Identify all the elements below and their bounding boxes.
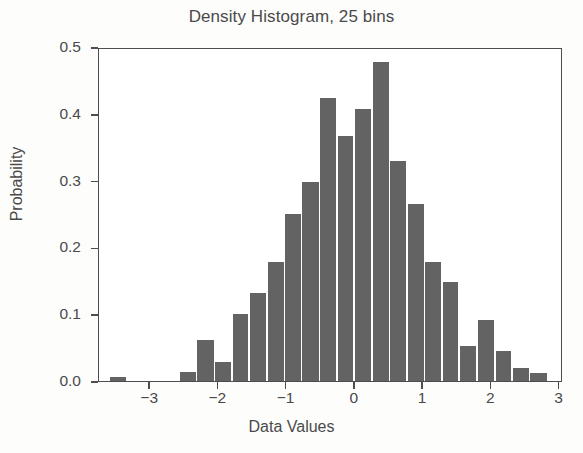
x-tick-mark — [490, 382, 492, 389]
x-tick-mark — [353, 382, 355, 389]
histogram-bar — [373, 62, 389, 381]
histogram-bar — [268, 262, 284, 381]
histogram-bar — [285, 214, 300, 381]
histogram-bar — [338, 136, 353, 381]
y-tick-mark — [91, 47, 98, 49]
y-tick-mark — [91, 248, 98, 250]
y-tick-label: 0.2 — [21, 238, 81, 256]
x-tick-label: 1 — [402, 389, 442, 407]
x-tick-mark — [558, 382, 560, 389]
histogram-bar — [443, 282, 458, 381]
x-tick-mark — [421, 382, 423, 389]
histogram-bar — [496, 351, 511, 381]
plot-area — [98, 48, 562, 382]
chart-title: Density Histogram, 25 bins — [0, 7, 583, 27]
x-tick-label: 2 — [470, 389, 510, 407]
histogram-bars — [99, 49, 561, 381]
x-tick-label: −1 — [266, 389, 306, 407]
x-tick-label: 0 — [334, 389, 374, 407]
y-tick-mark — [91, 181, 98, 183]
histogram-bar — [425, 262, 441, 381]
y-tick-label: 0.0 — [21, 372, 81, 390]
histogram-bar — [250, 293, 266, 381]
histogram-bar — [320, 98, 336, 381]
x-tick-mark — [285, 382, 287, 389]
histogram-bar — [302, 182, 318, 381]
histogram-bar — [110, 377, 126, 381]
histogram-bar — [408, 204, 424, 381]
y-tick-mark — [91, 114, 98, 116]
x-axis-label: Data Values — [0, 418, 583, 436]
histogram-bar — [478, 320, 494, 381]
y-tick-mark — [91, 381, 98, 383]
y-tick-label: 0.4 — [21, 105, 81, 123]
histogram-bar — [180, 372, 195, 381]
histogram-bar — [390, 161, 405, 381]
y-tick-label: 0.1 — [21, 305, 81, 323]
histogram-bar — [215, 362, 231, 381]
histogram-figure: Density Histogram, 25 bins Probability 0… — [0, 0, 583, 453]
x-tick-label: −3 — [129, 389, 169, 407]
x-tick-mark — [217, 382, 219, 389]
histogram-bar — [513, 368, 529, 381]
x-tick-mark — [148, 382, 150, 389]
y-tick-mark — [91, 314, 98, 316]
x-tick-label: −2 — [197, 389, 237, 407]
histogram-bar — [233, 314, 248, 381]
histogram-bar — [530, 373, 546, 381]
histogram-bar — [460, 346, 476, 381]
y-tick-label: 0.3 — [21, 172, 81, 190]
histogram-bar — [355, 109, 371, 381]
histogram-bar — [197, 340, 213, 381]
x-tick-label: 3 — [539, 389, 579, 407]
y-tick-label: 0.5 — [21, 38, 81, 56]
